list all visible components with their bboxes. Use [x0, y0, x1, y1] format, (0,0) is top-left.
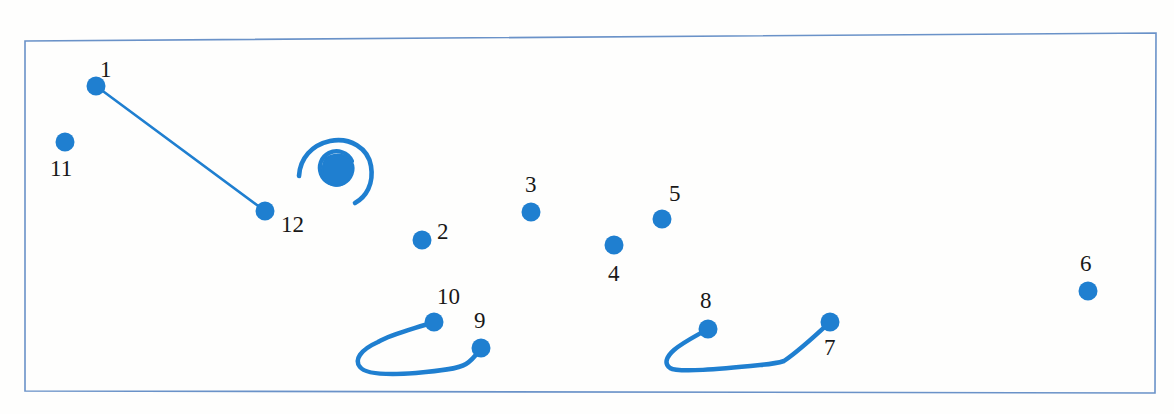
point-label-9: 9 — [474, 309, 486, 332]
point-dot-11[interactable] — [56, 133, 75, 152]
spiral-ink-blob — [323, 155, 354, 186]
spiral-annotation-icon — [299, 140, 372, 203]
point-dot-layer — [56, 77, 1098, 358]
point-dot-4[interactable] — [605, 236, 624, 255]
point-label-2: 2 — [437, 220, 449, 243]
connector-8-to-7-hook — [667, 322, 830, 370]
connector-10-to-9-hook — [358, 322, 481, 374]
connector-1-to-12 — [96, 86, 265, 211]
point-label-7: 7 — [824, 336, 836, 359]
point-dot-10[interactable] — [425, 313, 444, 332]
point-dot-6[interactable] — [1079, 282, 1098, 301]
point-label-1: 1 — [100, 58, 112, 81]
point-dot-7[interactable] — [821, 313, 840, 332]
point-label-8: 8 — [700, 289, 712, 312]
point-label-11: 11 — [50, 157, 72, 180]
point-dot-3[interactable] — [522, 203, 541, 222]
connector-layer — [96, 86, 830, 374]
point-label-10: 10 — [437, 285, 460, 308]
point-label-4: 4 — [608, 262, 620, 285]
point-label-6: 6 — [1080, 252, 1092, 275]
point-dot-8[interactable] — [699, 320, 718, 339]
point-dot-5[interactable] — [653, 210, 672, 229]
point-dot-12[interactable] — [256, 202, 275, 221]
point-dot-2[interactable] — [413, 231, 432, 250]
diagram-surface — [0, 0, 1174, 414]
point-label-3: 3 — [525, 173, 537, 196]
point-label-12: 12 — [281, 213, 304, 236]
border-rectangle — [25, 33, 1156, 393]
diagram-canvas: 123456789101112 — [0, 0, 1174, 414]
point-label-5: 5 — [669, 182, 681, 205]
point-dot-9[interactable] — [472, 339, 491, 358]
